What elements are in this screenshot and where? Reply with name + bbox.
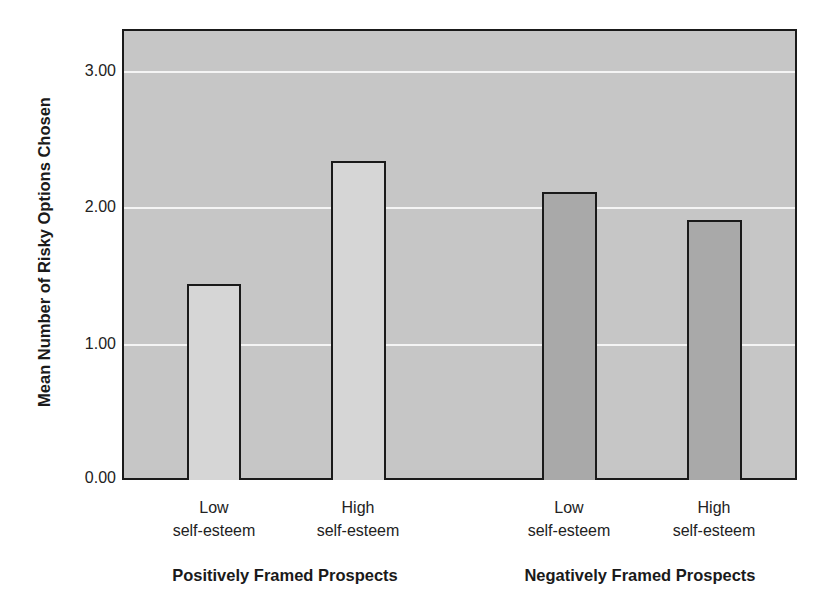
y-tick-0: 0.00	[85, 469, 116, 487]
bar-positive-high	[331, 161, 386, 480]
bar-negative-high	[687, 220, 742, 480]
y-tick-2: 2.00	[85, 198, 116, 216]
x-label-negative-low: Low self-esteem	[528, 496, 611, 542]
y-tick-1: 1.00	[85, 335, 116, 353]
gridline-3	[124, 71, 795, 73]
plot-area	[122, 29, 797, 480]
group-label-positive: Positively Framed Prospects	[172, 566, 398, 585]
y-axis-label: Mean Number of Risky Options Chosen	[35, 97, 54, 407]
group-label-negative: Negatively Framed Prospects	[524, 566, 755, 585]
bar-positive-low	[187, 284, 241, 480]
x-label-positive-high: High self-esteem	[317, 496, 400, 542]
y-tick-3: 3.00	[85, 62, 116, 80]
x-label-positive-low: Low self-esteem	[173, 496, 256, 542]
x-label-negative-high: High self-esteem	[673, 496, 756, 542]
gridline-2	[124, 207, 795, 209]
bar-negative-low	[542, 192, 597, 480]
